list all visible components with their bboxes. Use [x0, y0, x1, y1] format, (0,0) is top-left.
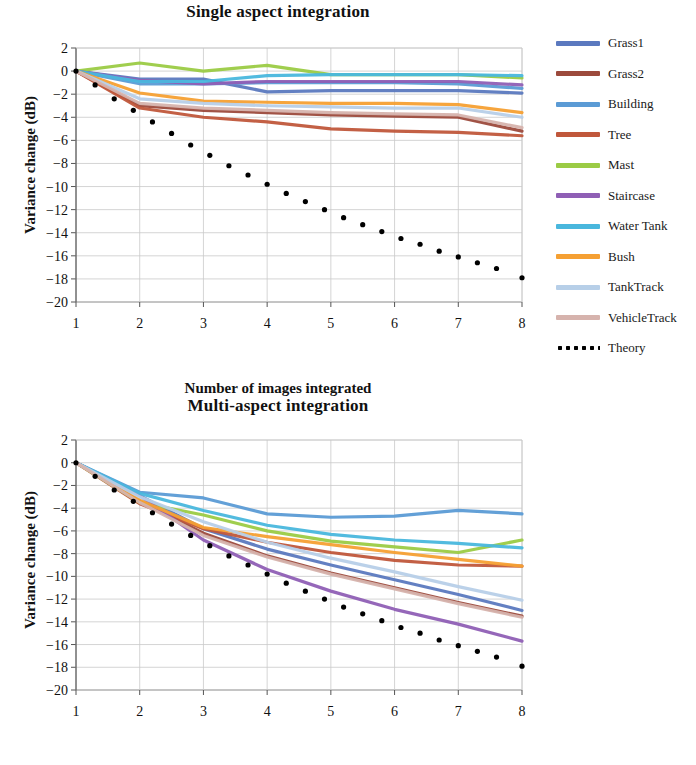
x-tick-label: 7: [455, 704, 462, 719]
y-tick-label: −20: [46, 683, 68, 698]
y-tick-label: −16: [46, 249, 68, 264]
y-tick-label: −16: [46, 638, 68, 653]
legend-swatch-icon: [556, 163, 600, 168]
y-tick-label: −2: [53, 87, 68, 102]
theory-marker: [417, 631, 422, 636]
y-tick-label: −4: [53, 110, 68, 125]
y-tick-label: −10: [46, 180, 68, 195]
legend-label: Mast: [608, 157, 634, 173]
x-tick-label: 2: [136, 316, 143, 331]
y-tick-label: −8: [53, 156, 68, 171]
theory-marker: [284, 191, 289, 196]
x-tick-label: 6: [391, 316, 398, 331]
legend-swatch-icon: [556, 315, 600, 320]
y-tick-label: −12: [46, 203, 68, 218]
y-tick-label: −12: [46, 592, 68, 607]
theory-marker: [475, 260, 480, 265]
theory-marker: [245, 172, 250, 177]
theory-marker: [150, 510, 155, 515]
x-tick-label: 6: [391, 704, 398, 719]
legend-item-theory[interactable]: Theory: [556, 333, 696, 364]
theory-marker: [322, 207, 327, 212]
theory-marker: [265, 182, 270, 187]
theory-marker: [112, 96, 117, 101]
theory-marker: [93, 82, 98, 87]
theory-marker: [73, 68, 78, 73]
theory-marker: [245, 562, 250, 567]
variance-change-figure: Single aspect integration Variance chang…: [0, 0, 696, 765]
x-tick-label: 5: [327, 704, 334, 719]
plot-svg-multi-aspect: 20−2−4−6−8−10−12−14−16−18−2012345678: [0, 432, 556, 757]
plot-svg-single-aspect: 20−2−4−6−8−10−12−14−16−18−2012345678: [0, 40, 556, 370]
theory-marker: [437, 637, 442, 642]
theory-marker: [437, 249, 442, 254]
theory-marker: [494, 266, 499, 271]
legend-swatch-icon: [556, 102, 600, 107]
legend-item-water-tank[interactable]: Water Tank: [556, 211, 696, 242]
legend-item-grass1[interactable]: Grass1: [556, 28, 696, 59]
legend-label: Staircase: [608, 188, 655, 204]
theory-marker: [341, 604, 346, 609]
x-tick-label: 3: [200, 704, 207, 719]
x-tick-label: 7: [455, 316, 462, 331]
theory-marker: [379, 229, 384, 234]
x-tick-label: 3: [200, 316, 207, 331]
legend-swatch-icon: [556, 193, 600, 198]
y-tick-label: −10: [46, 569, 68, 584]
y-tick-label: 0: [61, 456, 68, 471]
plot-area-single-aspect: Variance change (dB) 20−2−4−6−8−10−12−14…: [0, 40, 556, 310]
y-tick-label: −6: [53, 133, 68, 148]
theory-marker: [169, 521, 174, 526]
theory-marker: [284, 581, 289, 586]
theory-marker: [494, 654, 499, 659]
theory-marker: [360, 611, 365, 616]
chart-title-single-aspect: Single aspect integration: [0, 2, 556, 22]
y-tick-label: −20: [46, 295, 68, 310]
theory-marker: [456, 643, 461, 648]
legend-label: Grass1: [608, 35, 644, 51]
y-tick-label: −18: [46, 660, 68, 675]
y-tick-label: −14: [46, 615, 68, 630]
y-tick-label: −2: [53, 478, 68, 493]
legend-swatch-icon: [556, 132, 600, 137]
y-tick-label: −18: [46, 272, 68, 287]
theory-marker: [207, 153, 212, 158]
theory-marker: [456, 254, 461, 259]
legend-item-bush[interactable]: Bush: [556, 242, 696, 273]
legend-label: Water Tank: [608, 218, 668, 234]
x-tick-label: 4: [264, 704, 271, 719]
legend-swatch-icon: [556, 41, 600, 46]
legend-item-building[interactable]: Building: [556, 89, 696, 120]
panel-multi-aspect: Multi-aspect integration Variance change…: [0, 390, 696, 765]
legend-swatch-icon: [556, 285, 600, 290]
legend-item-mast[interactable]: Mast: [556, 150, 696, 181]
theory-marker: [322, 596, 327, 601]
theory-marker: [207, 543, 212, 548]
y-tick-label: −8: [53, 547, 68, 562]
theory-marker: [131, 108, 136, 113]
theory-marker: [226, 163, 231, 168]
legend-swatch-icon: [556, 254, 600, 259]
theory-marker: [303, 589, 308, 594]
plot-area-multi-aspect: Variance change (dB) 20−2−4−6−8−10−12−14…: [0, 432, 556, 694]
y-tick-label: 2: [61, 41, 68, 56]
theory-marker: [417, 242, 422, 247]
legend-single-aspect: Grass1Grass2BuildingTreeMastStaircaseWat…: [556, 28, 696, 364]
theory-marker: [112, 487, 117, 492]
legend-item-grass2[interactable]: Grass2: [556, 59, 696, 90]
legend-item-tanktrack[interactable]: TankTrack: [556, 272, 696, 303]
theory-marker: [303, 199, 308, 204]
theory-marker: [265, 571, 270, 576]
y-tick-label: 0: [61, 64, 68, 79]
theory-marker: [519, 275, 524, 280]
legend-item-staircase[interactable]: Staircase: [556, 181, 696, 212]
x-tick-label: 8: [519, 316, 526, 331]
x-tick-label: 1: [73, 316, 80, 331]
legend-item-tree[interactable]: Tree: [556, 120, 696, 151]
theory-marker: [398, 236, 403, 241]
legend-label: VehicleTrack: [608, 310, 677, 326]
legend-label: Building: [608, 96, 654, 112]
theory-marker: [475, 649, 480, 654]
theory-marker: [93, 474, 98, 479]
legend-item-vehicletrack[interactable]: VehicleTrack: [556, 303, 696, 334]
